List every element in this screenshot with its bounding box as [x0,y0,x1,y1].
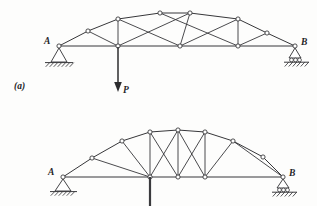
upper-label-B: B [300,37,307,47]
upper-diagonal-4 [180,13,190,46]
lower-support-A-hatching [51,192,75,196]
lower-support-roller-B [272,179,297,196]
upper-truss-group: A B P (a) [14,11,309,95]
figure-page: A B P (a) [0,0,317,206]
upper-joint-top-1 [86,29,90,33]
truss-figure: A B P (a) [0,0,317,206]
upper-label-A: A [43,36,50,46]
upper-joint-bottom-2 [178,44,182,48]
upper-support-A-hatching [46,63,74,67]
upper-support-pin-A [45,48,74,67]
lower-diagonal-7 [205,141,233,177]
lower-diagonal-1 [92,158,150,177]
upper-support-roller-B [284,48,309,66]
upper-joint-top-3 [158,11,162,15]
load-label-P: P [123,85,129,95]
upper-joint-top-6 [265,31,269,35]
upper-joint-top-2 [116,17,120,21]
lower-joint-top-7 [261,155,265,159]
part-label-a: (a) [14,81,25,92]
lower-truss-group: A B [47,128,297,206]
upper-joint-top-4 [188,11,192,15]
upper-top-chord [59,13,295,46]
lower-joint-bottom-2 [176,175,180,179]
lower-diagonal-2 [122,141,150,177]
lower-joint-top-2 [120,139,124,143]
upper-support-B-hatching [285,62,309,66]
lower-joint-top-4 [176,128,180,132]
lower-joint-top-5 [203,130,207,134]
lower-joint-top-3 [148,130,152,134]
load-arrow-P [114,47,122,92]
lower-label-B: B [288,168,295,178]
upper-diagonal-1 [88,31,118,46]
upper-joint-top-5 [236,17,240,21]
lower-label-A: A [47,167,54,177]
lower-joint-top-1 [90,156,94,160]
lower-support-pin-A [50,179,77,195]
upper-joint-bottom-3 [236,44,240,48]
lower-joint-bottom-3 [203,175,207,179]
upper-diagonal-7 [238,33,267,46]
lower-support-B-hatching [273,192,297,196]
lower-diagonal-8 [233,141,283,177]
lower-joint-top-6 [231,139,235,143]
